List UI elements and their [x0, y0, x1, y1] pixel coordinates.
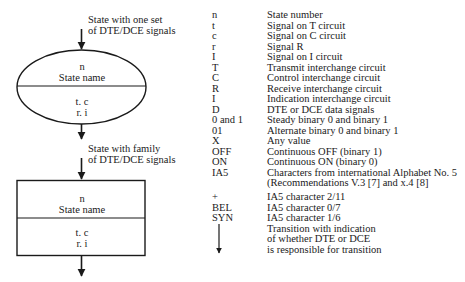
legend-symbol: IA5 — [212, 168, 228, 179]
family-state-number: n — [41, 193, 123, 204]
legend-meaning: Continuous ON (binary 0) — [267, 157, 378, 168]
legend-meaning: Control interchange circuit — [267, 73, 380, 84]
legend-meaning: Signal on C circuit — [267, 31, 346, 42]
family-state-signals-ri: r. i — [41, 238, 123, 249]
legend-meaning: of whether DTE or DCE — [267, 234, 370, 245]
single-state-name: State name — [41, 72, 123, 83]
legend-meaning: IA5 character 2/11 — [267, 192, 345, 203]
legend-symbol: ON — [212, 157, 227, 168]
single-state-number: n — [41, 61, 123, 72]
family-state-caption-line-1: State with family — [88, 143, 160, 154]
legend-symbol: I — [212, 52, 216, 63]
legend-symbol: 0 and 1 — [212, 115, 243, 126]
legend-meaning: State number — [267, 10, 323, 21]
legend-meaning: IA5 character 1/6 — [267, 213, 340, 224]
family-state-caption-line-2: of DTE/DCE signals — [88, 154, 176, 165]
legend-symbol: c — [212, 31, 217, 42]
legend-meaning: Signal on I circuit — [267, 52, 343, 63]
legend-symbol: n — [212, 10, 217, 21]
family-state-name: State name — [41, 204, 123, 215]
single-state-signals-ri: r. i — [41, 107, 123, 118]
single-state-caption-line-1: State with one set — [88, 14, 162, 25]
single-state-caption-line-2: of DTE/DCE signals — [88, 25, 176, 36]
legend-symbol: X — [212, 136, 220, 147]
legend-symbol: I — [212, 94, 216, 105]
legend-symbol: + — [212, 192, 218, 203]
legend-meaning: Any value — [267, 136, 310, 147]
legend-symbol: C — [212, 73, 219, 84]
legend-symbol: SYN — [212, 213, 233, 224]
legend-meaning: (Recommendations V.3 [7] and x.4 [8] — [267, 178, 428, 189]
legend-meaning: Steady binary 0 and binary 1 — [267, 115, 388, 126]
legend-meaning: Indication interchange circuit — [267, 94, 391, 105]
single-state-signals-tc: t. c — [41, 96, 123, 107]
legend-meaning: is responsible for transition — [267, 245, 382, 256]
family-state-signals-tc: t. c — [41, 227, 123, 238]
